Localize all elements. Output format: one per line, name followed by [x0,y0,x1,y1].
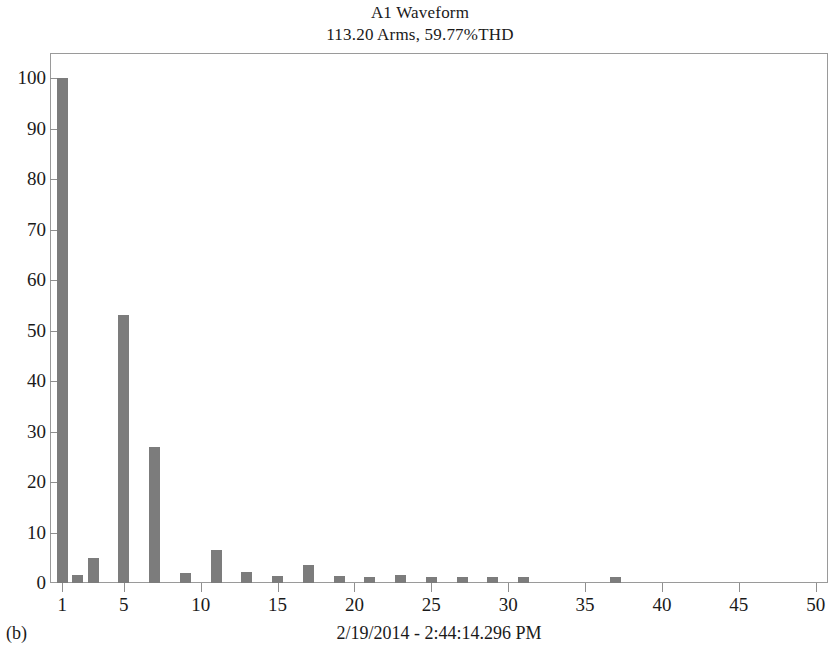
x-tick-30 [508,583,509,592]
y-tick-label-30: 30 [2,422,46,441]
x-tick-25 [431,583,432,592]
x-tick-label-10: 10 [171,594,231,616]
x-tick-label-5: 5 [94,594,154,616]
title-block: A1 Waveform 113.20 Arms, 59.77%THD [0,2,840,46]
x-tick-label-45: 45 [709,594,769,616]
plot-area [50,53,828,583]
bar-harmonic-37 [610,577,621,583]
timestamp-label: 2/19/2014 - 2:44:14.296 PM [50,622,828,644]
x-tick-label-15: 15 [248,594,308,616]
chart-title: A1 Waveform [0,2,840,24]
bar-harmonic-11 [211,550,222,583]
y-axis-labels: 0102030405060708090100 [0,0,46,660]
bar-harmonic-3 [88,558,99,583]
x-tick-label-30: 30 [478,594,538,616]
x-tick-15 [278,583,279,592]
bar-harmonic-15 [272,576,283,583]
y-tick-label-20: 20 [2,472,46,491]
x-tick-20 [354,583,355,592]
x-tick-label-1: 1 [32,594,92,616]
bar-harmonic-1 [57,78,68,583]
bar-harmonic-17 [303,565,314,583]
x-tick-label-50: 50 [786,594,840,616]
y-tick-label-10: 10 [2,523,46,542]
x-tick-10 [201,583,202,592]
harmonic-spectrum-figure: A1 Waveform 113.20 Arms, 59.77%THD 01020… [0,0,840,660]
chart-subtitle: 113.20 Arms, 59.77%THD [0,24,840,46]
y-tick-label-70: 70 [2,220,46,239]
bar-harmonic-2 [72,575,83,583]
bar-harmonic-9 [180,573,191,583]
y-tick-label-100: 100 [2,68,46,87]
x-tick-35 [585,583,586,592]
x-tick-50 [816,583,817,592]
x-tick-label-40: 40 [632,594,692,616]
figure-caption: (b) [6,622,27,644]
bar-harmonic-23 [395,575,406,583]
bar-harmonic-27 [457,577,468,583]
y-tick-label-80: 80 [2,169,46,188]
x-tick-label-25: 25 [401,594,461,616]
y-tick-label-50: 50 [2,321,46,340]
y-tick-label-90: 90 [2,119,46,138]
y-tick-label-0: 0 [2,573,46,592]
bar-harmonic-7 [149,447,160,583]
bar-harmonic-5 [118,315,129,583]
bar-harmonic-21 [364,577,375,583]
x-tick-40 [662,583,663,592]
bar-harmonic-29 [487,577,498,583]
bar-harmonic-19 [334,576,345,583]
bar-harmonic-13 [241,572,252,583]
x-tick-45 [739,583,740,592]
bar-harmonic-31 [518,577,529,583]
x-tick-label-20: 20 [324,594,384,616]
y-tick-label-40: 40 [2,371,46,390]
x-tick-1 [62,583,63,592]
y-tick-label-60: 60 [2,270,46,289]
x-tick-label-35: 35 [555,594,615,616]
x-tick-5 [124,583,125,592]
